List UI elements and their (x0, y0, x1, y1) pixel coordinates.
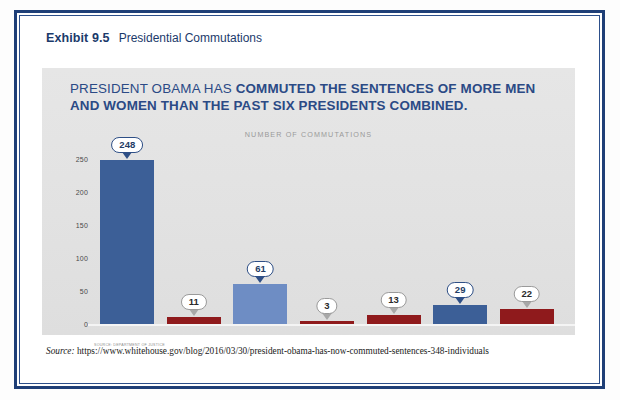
bar-group: 11 (167, 152, 221, 324)
headline-light-text: PRESIDENT OBAMA HAS (70, 81, 236, 96)
y-axis: 050100150200250 (42, 152, 88, 324)
value-bubble: 29 (447, 282, 474, 298)
bar (167, 317, 221, 324)
source-url: https://www.whitehouse.gov/blog/2016/03/… (77, 346, 489, 356)
bar-group: 248 (100, 152, 154, 324)
exhibit-title: Presidential Commutations (119, 31, 262, 45)
exhibit-page: Exhibit 9.5Presidential Commutations PRE… (0, 0, 620, 400)
bar (500, 309, 554, 324)
value-bubble: 22 (513, 286, 540, 302)
chart-panel: PRESIDENT OBAMA HAS COMMUTED THE SENTENC… (42, 68, 575, 335)
bar-group: 3 (300, 152, 354, 324)
y-axis-tick: 50 (44, 287, 88, 294)
bubble-tail (322, 313, 332, 320)
footer-source-line: Source: https://www.whitehouse.gov/blog/… (46, 346, 576, 356)
bar-group: 29 (433, 152, 487, 324)
exhibit-header: Exhibit 9.5Presidential Commutations (46, 31, 262, 45)
y-axis-tick: 150 (44, 221, 88, 228)
bar (367, 315, 421, 324)
y-axis-tick: 200 (44, 188, 88, 195)
y-axis-tick: 0 (44, 321, 88, 328)
bar-group: 13 (367, 152, 421, 324)
bubble-tail (522, 301, 532, 308)
bubble-tail (189, 309, 199, 316)
exhibit-content: Exhibit 9.5Presidential Commutations PRE… (20, 16, 599, 383)
y-axis-tick: 250 (44, 155, 88, 162)
bar (233, 284, 287, 324)
bar (100, 160, 154, 324)
exhibit-number: Exhibit 9.5 (46, 31, 110, 45)
bar-series: OBAMA248BUSH 4311CLINTON61BUSH 413REAGAN… (94, 152, 560, 324)
bubble-tail (455, 297, 465, 304)
y-axis-tick: 100 (44, 254, 88, 261)
bar-group: 22 (500, 152, 554, 324)
bar-group: 61 (233, 152, 287, 324)
bubble-tail (255, 276, 265, 283)
bubble-tail (122, 152, 132, 159)
bar (300, 321, 354, 324)
x-axis-baseline (88, 324, 575, 326)
value-bubble: 13 (380, 292, 407, 308)
bubble-tail (389, 307, 399, 314)
value-bubble: 248 (111, 137, 143, 153)
value-bubble: 3 (316, 298, 337, 314)
bar (433, 305, 487, 324)
value-bubble: 11 (181, 294, 207, 310)
source-label: Source: (46, 346, 75, 356)
value-bubble: 61 (247, 261, 274, 277)
chart-headline: PRESIDENT OBAMA HAS COMMUTED THE SENTENC… (70, 81, 550, 114)
